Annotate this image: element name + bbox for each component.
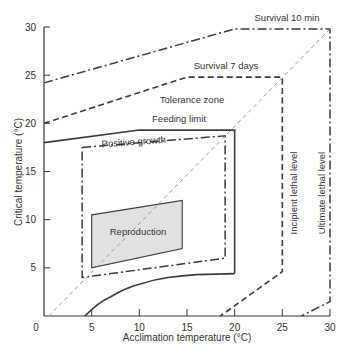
x-axis-label: Acclimation temperature (°C) — [123, 332, 251, 343]
label-tolerance-zone: Tolerance zone — [160, 94, 224, 105]
x-tick-label: 5 — [89, 322, 95, 333]
label-survival-10min: Survival 10 min — [255, 12, 320, 23]
label-reproduction: Reproduction — [110, 226, 167, 237]
annotations: Survival 10 min Survival 7 days Toleranc… — [101, 12, 327, 237]
label-feeding-limit: Feeding limit — [152, 113, 206, 124]
y-tick-label: 15 — [25, 166, 37, 177]
y-tick-label: 25 — [25, 70, 37, 81]
series-feeding-limit-lower-boundary — [85, 274, 235, 316]
label-ultimate-lethal: Ultimate lethal level — [316, 152, 327, 234]
y-tick-label: 20 — [25, 118, 37, 129]
y-tick-label: 30 — [25, 22, 37, 33]
y-tick-label: 10 — [25, 214, 37, 225]
x-tick-label: 30 — [324, 322, 336, 333]
x-ticks: 051015202530 — [33, 309, 336, 333]
y-ticks: 51015202530 — [25, 22, 50, 274]
label-survival-7days: Survival 7 days — [194, 60, 259, 71]
thermal-tolerance-chart: 51015202530 051015202530 Acclimation tem… — [0, 0, 348, 357]
y-tick-label: 5 — [30, 262, 36, 273]
label-positive-growth: Positive growth — [101, 134, 166, 149]
chart-container: 51015202530 051015202530 Acclimation tem… — [0, 0, 348, 357]
label-incipient-lethal: Incipient lethal level — [288, 152, 299, 235]
y-axis-label: Critical temperature (°C) — [13, 118, 24, 226]
x-tick-label: 25 — [277, 322, 289, 333]
x-tick-label: 0 — [33, 322, 39, 333]
